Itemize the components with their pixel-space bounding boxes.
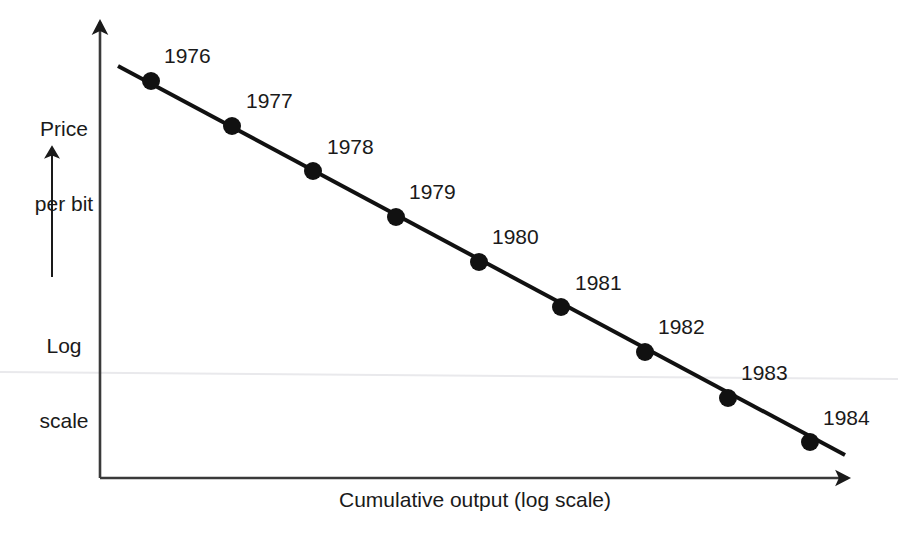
data-point-label-1978: 1978 bbox=[327, 136, 374, 157]
data-point-marker-1978 bbox=[304, 162, 322, 180]
y-axis-title: Price per bit bbox=[18, 66, 110, 266]
y-axis-scale-note-line1: Log bbox=[18, 333, 110, 358]
experience-curve-figure: Price per bit Log scale Cumulative outpu… bbox=[0, 0, 898, 540]
data-point-label-1983: 1983 bbox=[741, 362, 788, 383]
data-point-label-1981: 1981 bbox=[575, 272, 622, 293]
data-point-label-1976: 1976 bbox=[164, 45, 211, 66]
y-axis-title-line2: per bit bbox=[18, 191, 110, 216]
chart-canvas bbox=[0, 0, 898, 540]
data-point-group bbox=[142, 72, 819, 451]
data-point-label-1980: 1980 bbox=[492, 226, 539, 247]
data-point-marker-1984 bbox=[801, 433, 819, 451]
data-point-marker-1976 bbox=[142, 72, 160, 90]
y-axis-title-line1: Price bbox=[18, 116, 110, 141]
x-axis-title: Cumulative output (log scale) bbox=[260, 487, 690, 512]
data-point-label-1977: 1977 bbox=[246, 90, 293, 111]
y-axis-scale-note: Log scale bbox=[18, 283, 110, 483]
data-point-marker-1979 bbox=[387, 208, 405, 226]
data-point-marker-1981 bbox=[552, 298, 570, 316]
data-point-marker-1977 bbox=[223, 117, 241, 135]
data-point-marker-1980 bbox=[470, 253, 488, 271]
data-point-marker-1983 bbox=[719, 389, 737, 407]
data-point-label-1982: 1982 bbox=[658, 316, 705, 337]
y-axis-scale-note-line2: scale bbox=[18, 408, 110, 433]
data-point-label-1979: 1979 bbox=[409, 181, 456, 202]
data-point-marker-1982 bbox=[636, 343, 654, 361]
data-point-label-1984: 1984 bbox=[823, 407, 870, 428]
